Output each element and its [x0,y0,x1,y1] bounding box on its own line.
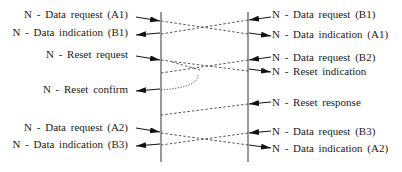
arrow-a2-indication [249,145,271,148]
arrow-b1-request [249,17,271,20]
msg-reset-response [161,104,248,115]
msg-reset-cross [172,62,200,70]
label-right-data-request-b3: N - Data request (B3) [272,125,375,137]
arrow-reset-indication [249,69,271,72]
msg-b2 [161,60,248,73]
label-right-data-request-b2: N - Data request (B2) [272,51,375,63]
arrow-a2-request [136,128,160,132]
arrow-reset-confirm [136,89,160,91]
msg-a1 [161,21,248,34]
arrow-b1-indication [136,33,160,35]
label-left-data-indication-b3: N - Data indication (B3) [12,138,128,150]
arrow-reset-response [249,102,271,104]
arrow-b3-request [249,131,271,133]
label-left-reset-request: N - Reset request [46,48,128,60]
msg-b3 [161,133,248,145]
label-right-reset-indication: N - Reset indication [272,65,366,77]
msg-reset [161,60,248,71]
label-left-reset-confirm: N - Reset confirm [43,83,128,95]
label-left-data-indication-b1: N - Data indication (B1) [12,26,128,38]
msg-reset-confirm-local [161,75,198,90]
arrow-b2-request [249,57,271,60]
label-right-data-indication-a1: N - Data indication (A1) [272,28,388,40]
msg-b1 [161,20,248,34]
msg-a2 [161,133,248,145]
label-right-data-indication-a2: N - Data indication (A2) [272,142,388,154]
label-right-data-request-b1: N - Data request (B1) [272,8,375,20]
arrow-b3-indication [136,144,160,146]
arrow-a1-request [136,17,160,21]
label-left-data-request-a1: N - Data request (A1) [24,8,128,20]
label-right-reset-response: N - Reset response [272,96,361,108]
label-left-data-request-a2: N - Data request (A2) [24,121,128,133]
arrow-reset-request [136,56,160,60]
reset-sequence-diagram: N - Data request (A1) N - Data indicatio… [0,0,402,172]
arrow-a1-indication [249,33,271,36]
